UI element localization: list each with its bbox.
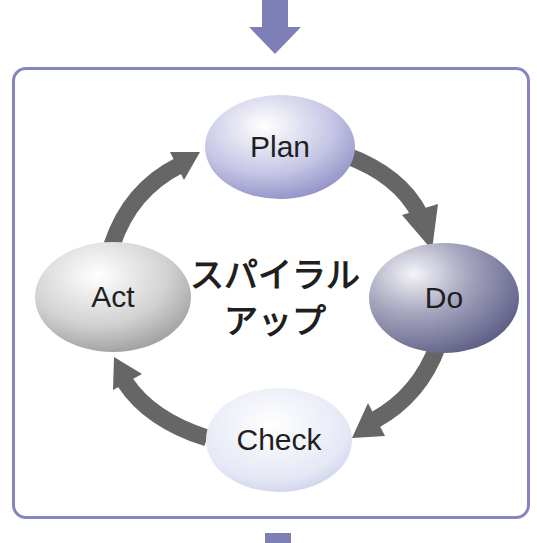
node-plan: Plan (205, 95, 355, 199)
node-plan-label: Plan (250, 130, 310, 164)
arrow-plan-to-do-icon (345, 155, 438, 250)
arrow-check-to-act-icon (113, 357, 207, 438)
node-do-label: Do (425, 281, 463, 315)
arrow-act-to-plan-icon (112, 152, 200, 245)
arrow-do-to-check-icon (352, 345, 438, 438)
center-label: スパイラル アップ (190, 252, 360, 344)
node-check: Check (206, 388, 352, 492)
node-do: Do (369, 243, 519, 353)
node-act-label: Act (91, 280, 134, 314)
center-label-line1: スパイラル (190, 252, 360, 298)
node-check-label: Check (236, 423, 321, 457)
node-act: Act (35, 242, 191, 352)
center-label-line2: アップ (190, 298, 360, 344)
